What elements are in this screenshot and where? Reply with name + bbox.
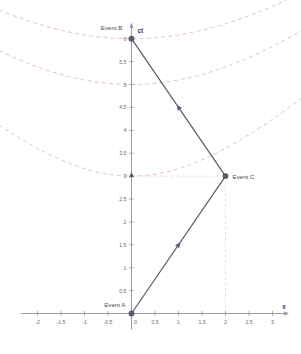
event-a-label: Event A bbox=[104, 301, 126, 308]
event-point-c[interactable] bbox=[223, 173, 229, 179]
ct-tick-label: 6 bbox=[124, 36, 127, 42]
minkowski-diagram: -2-1.5-1-0.500.511.522.53 0.511.522.533.… bbox=[0, 0, 301, 354]
ct-tick-label: 4 bbox=[124, 127, 127, 133]
x-tick-label: 0.5 bbox=[151, 319, 158, 325]
ct-axis-midpoint-marker bbox=[129, 172, 134, 177]
invariant-hyperbola-group bbox=[0, 0, 301, 176]
x-tick-label: 2.5 bbox=[245, 319, 252, 325]
ct-tick-label: 5 bbox=[124, 82, 127, 88]
ct-axis-label: ct bbox=[138, 27, 145, 34]
ct-tick-label: 0.5 bbox=[119, 288, 126, 294]
x-axis-ticks: -2-1.5-1-0.500.511.522.53 bbox=[35, 311, 274, 325]
invariant-hyperbola-ct5 bbox=[0, 13, 301, 85]
ct-tick-label: 5.5 bbox=[119, 59, 126, 65]
event-b-label: Event B bbox=[101, 24, 123, 31]
x-tick-label: 1.5 bbox=[198, 319, 205, 325]
x-tick-label: 0 bbox=[134, 319, 137, 325]
ct-tick-label: 3.5 bbox=[119, 150, 126, 156]
ct-tick-label: 4.5 bbox=[119, 104, 126, 110]
x-tick-label: 3 bbox=[271, 319, 274, 325]
x-tick-label: 2 bbox=[224, 319, 227, 325]
ct-tick-label: 2 bbox=[124, 219, 127, 225]
x-tick-label: -0.5 bbox=[104, 319, 113, 325]
ct-tick-label: 1 bbox=[124, 265, 127, 271]
ct-tick-label: 2.5 bbox=[119, 196, 126, 202]
x-axis-label: x bbox=[282, 303, 286, 310]
ct-tick-label: 1.5 bbox=[119, 242, 126, 248]
worldline-return-direction-arrow bbox=[177, 105, 182, 111]
event-point-b[interactable] bbox=[129, 36, 135, 42]
x-tick-label: 1 bbox=[177, 319, 180, 325]
worldline-outbound-direction-arrow bbox=[175, 242, 180, 248]
x-tick-label: -1.5 bbox=[57, 319, 66, 325]
event-c-label: Event C bbox=[233, 173, 256, 180]
event-point-a[interactable] bbox=[129, 311, 135, 317]
x-axis-arrowhead bbox=[284, 311, 289, 315]
spacetime-diagram-canvas: -2-1.5-1-0.500.511.522.53 0.511.522.533.… bbox=[0, 0, 301, 354]
ct-tick-label: 3 bbox=[124, 173, 127, 179]
invariant-hyperbola-ct6 bbox=[0, 0, 301, 39]
x-tick-label: -1 bbox=[82, 319, 87, 325]
worldline-arrow-group bbox=[129, 105, 182, 248]
invariant-hyperbola-ct3 bbox=[0, 75, 301, 176]
ct-axis-arrowhead bbox=[129, 23, 133, 28]
x-tick-label: -2 bbox=[35, 319, 40, 325]
